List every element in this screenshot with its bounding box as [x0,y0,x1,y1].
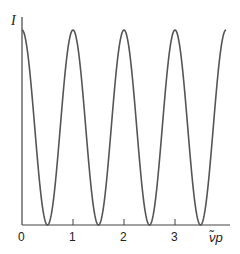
x-tick-label: 0 [18,231,25,243]
x-ticks [73,219,175,225]
interferogram-chart [0,0,240,254]
x-axis-label: ν̃p [209,231,223,244]
x-tick-label: 2 [120,231,127,243]
x-tick-label: 3 [171,231,178,243]
intensity-curve [22,30,226,225]
x-tick-label: 1 [69,231,76,243]
y-axis-label: I [11,14,16,28]
